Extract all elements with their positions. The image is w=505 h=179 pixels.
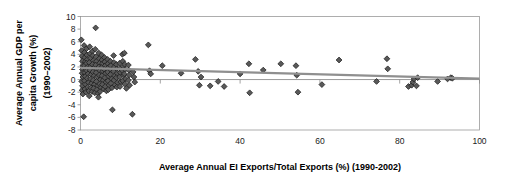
data-point-marker <box>198 74 204 80</box>
y-axis-tick-labels: 1086420-2-4-6-8 <box>66 12 76 136</box>
x-axis-tick-labels: 020406080100 <box>78 136 487 146</box>
y-tick-label: 2 <box>71 62 76 72</box>
data-point-marker <box>159 63 165 69</box>
data-point-marker <box>132 79 138 85</box>
data-point-marker <box>110 107 116 113</box>
chart-canvas: 1086420-2-4-6-8 020406080100 Average Ann… <box>0 0 505 179</box>
x-tick-label: 0 <box>78 136 83 146</box>
y-tick-label: -2 <box>68 87 76 97</box>
data-point-marker <box>197 82 203 88</box>
x-axis-tick-marks <box>81 80 480 84</box>
y-tick-label: -4 <box>68 100 76 110</box>
data-point-marker <box>221 84 227 90</box>
data-point-marker <box>145 42 151 48</box>
data-point-marker <box>385 66 391 72</box>
scatter-chart-figure: 1086420-2-4-6-8 020406080100 Average Ann… <box>0 0 505 179</box>
data-point-marker <box>129 111 135 117</box>
x-tick-label: 20 <box>156 136 166 146</box>
data-point-marker <box>247 90 253 96</box>
data-point-marker <box>193 56 199 62</box>
y-tick-label: 10 <box>66 12 76 22</box>
y-tick-label: -6 <box>68 112 76 122</box>
y-tick-label: 0 <box>71 75 76 85</box>
x-tick-label: 80 <box>395 136 405 146</box>
y-tick-label: -8 <box>68 125 76 135</box>
data-point-marker <box>293 63 299 69</box>
data-point-marker <box>384 56 390 62</box>
x-tick-label: 40 <box>235 136 245 146</box>
y-tick-label: 8 <box>71 24 76 34</box>
y-axis-title-line2: capita Growth (%) <box>28 35 38 112</box>
data-point-marker <box>295 89 301 95</box>
y-axis-title-line1: Average Annual GDP per <box>14 19 24 126</box>
x-tick-label: 100 <box>472 136 486 146</box>
data-point-marker <box>207 83 213 89</box>
data-point-marker <box>111 53 117 59</box>
data-point-marker <box>278 61 284 67</box>
y-tick-label: 4 <box>71 49 76 59</box>
y-axis-title-line3: (1990–2002) <box>42 47 52 98</box>
y-tick-label: 6 <box>71 37 76 47</box>
trend-line <box>81 68 480 79</box>
data-point-marker <box>81 114 87 120</box>
data-point-marker <box>336 57 342 63</box>
x-axis-title: Average Annual EI Exports/Total Exports … <box>159 162 401 172</box>
x-tick-label: 60 <box>315 136 325 146</box>
data-point-marker <box>93 25 99 31</box>
data-point-marker <box>246 61 252 67</box>
